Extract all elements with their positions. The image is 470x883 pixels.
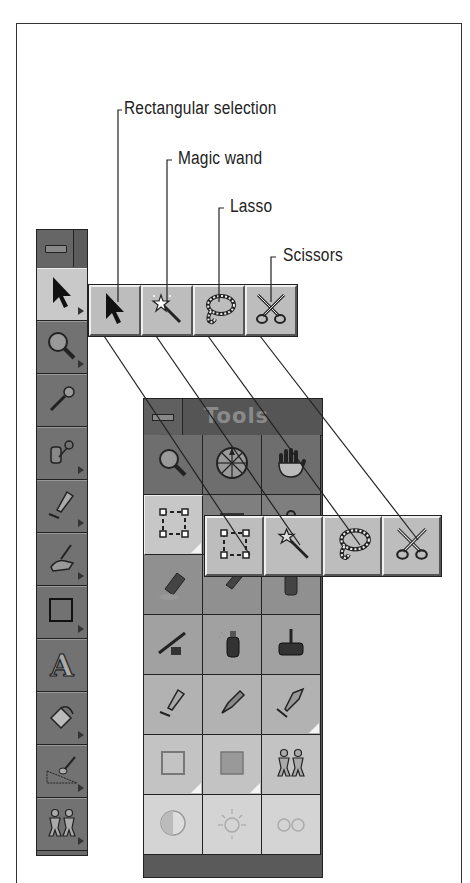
clone-bottle-icon [45, 435, 79, 473]
callout-scissors: Scissors [283, 245, 343, 266]
flyout-corner-icon [250, 783, 260, 793]
pen-nib-icon [214, 685, 250, 725]
flyout-button-magic-wand[interactable] [264, 516, 323, 576]
eyes-icon [273, 805, 309, 845]
flyout-indicator-icon [78, 784, 84, 792]
tool-paint-bucket[interactable] [37, 692, 87, 745]
tool-cell-spray-can[interactable] [203, 615, 262, 675]
callout-rectangular-selection: Rectangular selection [124, 98, 276, 119]
tool-text[interactable]: A [37, 639, 87, 692]
tool-cell-brush[interactable] [144, 675, 203, 735]
dashed-rect-select-icon [217, 526, 253, 566]
tool-cell-airbrush[interactable] [144, 615, 203, 675]
tool-cell-navigator[interactable] [203, 435, 262, 495]
tool-smudge[interactable] [37, 533, 87, 586]
svg-text:A: A [49, 648, 74, 681]
palette-title-bar[interactable] [37, 230, 87, 269]
tool-cell-red-eye[interactable] [262, 795, 321, 855]
lasso-icon [333, 525, 373, 567]
flyout-button-magic-wand[interactable] [141, 285, 193, 336]
tool-brush[interactable] [37, 480, 87, 533]
paint-bucket-icon [45, 700, 79, 738]
tools-palette-title: Tools [204, 404, 269, 428]
tool-cell-rectangle-filled[interactable] [203, 735, 262, 795]
tool-eyedropper[interactable] [37, 374, 87, 427]
hand-icon [271, 443, 311, 487]
tool-rectangle-shape[interactable] [37, 586, 87, 639]
callout-magic-wand: Magic wand [178, 148, 262, 169]
callout-lasso: Lasso [230, 196, 272, 217]
half-circle-icon [155, 805, 191, 845]
letter-a-icon: A [45, 647, 79, 685]
magic-wand-icon [276, 526, 312, 566]
eraser-icon [155, 565, 191, 605]
dashed-rect-select-icon [156, 505, 192, 545]
close-box-icon[interactable] [37, 230, 74, 267]
lasso-icon [201, 291, 237, 331]
rectangle-outline-icon [155, 745, 191, 785]
flyout-indicator-icon [78, 360, 84, 368]
flyout-indicator-icon [78, 572, 84, 580]
tool-cell-contrast[interactable] [144, 795, 203, 855]
flyout-corner-icon [191, 783, 201, 793]
scissors-icon [393, 526, 431, 566]
tool-cell-magnifier[interactable] [144, 435, 203, 495]
effect-brush-icon [45, 753, 79, 791]
smudge-hand-icon [45, 541, 79, 579]
tool-cell-rectangle-outline[interactable] [144, 735, 203, 795]
flyout-button-scissors[interactable] [382, 516, 441, 576]
rectangle-filled-icon [214, 745, 250, 785]
tools-palette: Tools [143, 398, 323, 878]
flyout-button-lasso[interactable] [193, 285, 245, 336]
rectangle-icon [45, 594, 79, 632]
magnifier-icon [156, 446, 190, 484]
paper-dolls-icon [45, 806, 79, 844]
tool-effects[interactable] [37, 745, 87, 798]
tool-cell-rectangular-selection[interactable] [144, 495, 203, 555]
flyout-button-scissors[interactable] [245, 285, 297, 336]
spray-can-icon [214, 625, 250, 665]
flyout-indicator-icon [78, 731, 84, 739]
flyout-indicator-icon [78, 307, 84, 315]
calligraphy-icon [273, 685, 309, 725]
tool-selection-arrow[interactable] [37, 268, 87, 321]
tool-object-picker[interactable] [37, 798, 87, 851]
eyedropper-icon [45, 382, 79, 420]
selection-flyout-lower [204, 515, 442, 577]
scissors-icon [253, 292, 289, 330]
flyout-corner-icon [309, 723, 319, 733]
flyout-button-rectangular-selection[interactable] [205, 516, 264, 576]
flyout-button-lasso[interactable] [323, 516, 382, 576]
flyout-corner-icon [191, 543, 201, 553]
tool-cell-objects[interactable] [262, 735, 321, 795]
magic-wand-icon [150, 292, 184, 330]
compass-dial-icon [212, 443, 252, 487]
tool-cell-eraser[interactable] [144, 555, 203, 615]
tools-palette-title-bar[interactable]: Tools [144, 399, 322, 436]
left-tool-palette: A [36, 229, 88, 856]
flyout-indicator-icon [78, 519, 84, 527]
airbrush-icon [155, 625, 191, 665]
flyout-indicator-icon [78, 466, 84, 474]
tool-cell-pen[interactable] [203, 675, 262, 735]
tool-cell-pan[interactable] [262, 435, 321, 495]
paper-dolls-icon [274, 746, 308, 784]
sun-icon [214, 805, 250, 845]
arrow-pointer-icon [100, 291, 130, 331]
flyout-button-rectangular-selection[interactable] [89, 285, 141, 336]
tool-cell-roller[interactable] [262, 615, 321, 675]
tool-cell-calligraphy[interactable] [262, 675, 321, 735]
tool-cell-brightness[interactable] [203, 795, 262, 855]
selection-flyout-upper [88, 284, 298, 337]
paint-roller-icon [273, 625, 309, 665]
tool-clone[interactable] [37, 427, 87, 480]
brush-icon [45, 488, 79, 526]
tool-magnifier[interactable] [37, 321, 87, 374]
brush-icon [156, 686, 190, 724]
magnifier-icon [45, 329, 79, 367]
close-box-icon[interactable] [144, 399, 183, 435]
flyout-indicator-icon [78, 837, 84, 845]
arrow-pointer-icon [47, 275, 77, 315]
flyout-indicator-icon [78, 625, 84, 633]
